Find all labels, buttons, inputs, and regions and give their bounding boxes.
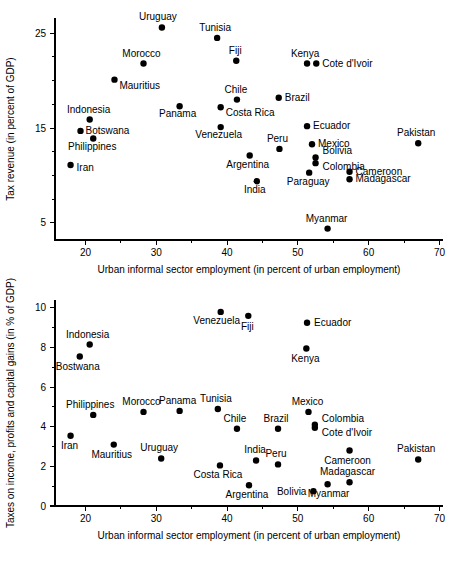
data-point-label: Iran bbox=[77, 162, 94, 173]
data-point[interactable] bbox=[312, 160, 318, 166]
data-point[interactable] bbox=[312, 425, 318, 431]
data-point-label: Costa Rica bbox=[226, 107, 275, 118]
data-point[interactable] bbox=[324, 481, 330, 487]
data-point-label: Bolivia bbox=[323, 145, 353, 156]
data-point[interactable] bbox=[304, 320, 310, 326]
data-point[interactable] bbox=[111, 76, 117, 82]
data-point[interactable] bbox=[140, 409, 146, 415]
data-point[interactable] bbox=[215, 406, 221, 412]
data-point-label: Uruguay bbox=[140, 442, 178, 453]
x-tick-label: 70 bbox=[434, 247, 446, 258]
y-tick-label: 15 bbox=[35, 123, 47, 134]
data-point-label: Peru bbox=[265, 448, 286, 459]
x-tick-label: 20 bbox=[80, 513, 92, 524]
data-point[interactable] bbox=[275, 461, 281, 467]
data-point-label: Fiji bbox=[241, 321, 254, 332]
x-tick-label: 50 bbox=[292, 513, 304, 524]
data-point-label: Indonesia bbox=[66, 329, 110, 340]
data-point-label: Venezuela bbox=[193, 315, 240, 326]
data-point[interactable] bbox=[234, 426, 240, 432]
y-tick-label: 4 bbox=[40, 421, 46, 432]
data-point[interactable] bbox=[233, 57, 239, 63]
data-point[interactable] bbox=[304, 60, 310, 66]
data-point[interactable] bbox=[234, 96, 240, 102]
data-point[interactable] bbox=[111, 441, 117, 447]
data-point[interactable] bbox=[159, 24, 165, 30]
data-point-label: Morocco bbox=[122, 396, 161, 407]
data-point-label: Chile bbox=[224, 413, 247, 424]
scatter-figure: 20304050607051525UruguayTunisiaMoroccoFi… bbox=[0, 0, 461, 565]
data-point-label: Mauritius bbox=[91, 449, 132, 460]
data-point-label: Kenya bbox=[291, 353, 320, 364]
x-tick-label: 60 bbox=[363, 513, 375, 524]
data-point[interactable] bbox=[217, 462, 223, 468]
data-point[interactable] bbox=[86, 341, 92, 347]
data-point[interactable] bbox=[275, 426, 281, 432]
data-point-label: Cote d'Ivoir bbox=[322, 427, 373, 438]
data-point[interactable] bbox=[67, 432, 73, 438]
data-point-label: India bbox=[244, 444, 266, 455]
x-tick-label: 30 bbox=[151, 513, 163, 524]
data-point[interactable] bbox=[346, 447, 352, 453]
data-point[interactable] bbox=[176, 408, 182, 414]
data-point-label: Madagascar bbox=[320, 466, 376, 477]
data-point-label: Indonesia bbox=[67, 104, 111, 115]
y-tick-label: 0 bbox=[40, 501, 46, 512]
data-point[interactable] bbox=[276, 94, 282, 100]
data-point[interactable] bbox=[346, 168, 352, 174]
data-point[interactable] bbox=[246, 482, 252, 488]
data-point-label: Peru bbox=[267, 133, 288, 144]
data-point[interactable] bbox=[303, 345, 309, 351]
data-point[interactable] bbox=[313, 60, 319, 66]
data-point-label: Panama bbox=[159, 395, 197, 406]
data-point[interactable] bbox=[346, 176, 352, 182]
data-point[interactable] bbox=[158, 455, 164, 461]
y-tick-label: 25 bbox=[35, 28, 47, 39]
data-point[interactable] bbox=[415, 456, 421, 462]
chart-income-taxes: 2030405060700246810VenezuelaFijiEcuadorI… bbox=[0, 278, 461, 565]
x-axis-ticks: 203040506070 bbox=[80, 506, 446, 524]
data-point[interactable] bbox=[140, 60, 146, 66]
data-point[interactable] bbox=[217, 104, 223, 110]
data-point[interactable] bbox=[214, 35, 220, 41]
data-point[interactable] bbox=[346, 479, 352, 485]
data-point-label: Tunisia bbox=[200, 393, 232, 404]
data-points: UruguayTunisiaMoroccoFijiKenyaCote d'Ivo… bbox=[67, 11, 435, 231]
data-point[interactable] bbox=[324, 225, 330, 231]
data-point[interactable] bbox=[305, 409, 311, 415]
data-point-label: Venezuela bbox=[195, 129, 242, 140]
data-point-label: Panama bbox=[159, 108, 197, 119]
data-point[interactable] bbox=[77, 128, 83, 134]
data-point-label: Myanmar bbox=[306, 213, 348, 224]
data-points: VenezuelaFijiEcuadorIndonesiaKenyaBostwa… bbox=[56, 309, 436, 501]
data-point[interactable] bbox=[415, 140, 421, 146]
data-point[interactable] bbox=[312, 154, 318, 160]
data-point[interactable] bbox=[309, 141, 315, 147]
data-point-label: Cote d'Ivoir bbox=[322, 58, 373, 69]
data-point[interactable] bbox=[245, 313, 251, 319]
data-point[interactable] bbox=[86, 116, 92, 122]
x-tick-label: 30 bbox=[151, 247, 163, 258]
data-point-label: Cameroon bbox=[324, 455, 371, 466]
data-point[interactable] bbox=[304, 123, 310, 129]
y-axis-ticks: 0246810 bbox=[35, 302, 55, 511]
data-point[interactable] bbox=[90, 412, 96, 418]
data-point[interactable] bbox=[67, 162, 73, 168]
data-point-label: Argentina bbox=[226, 489, 269, 500]
data-point-label: Pakistan bbox=[397, 443, 435, 454]
data-point-label: Pakistan bbox=[397, 127, 435, 138]
data-point-label: India bbox=[244, 184, 266, 195]
data-point-label: Kenya bbox=[291, 48, 320, 59]
data-point-label: Mexico bbox=[292, 396, 324, 407]
data-point[interactable] bbox=[310, 488, 316, 494]
data-point[interactable] bbox=[276, 146, 282, 152]
data-point-label: Ecuador bbox=[314, 317, 352, 328]
data-point-label: Chile bbox=[225, 84, 248, 95]
x-tick-label: 40 bbox=[221, 247, 233, 258]
data-point[interactable] bbox=[77, 353, 83, 359]
data-point[interactable] bbox=[253, 457, 259, 463]
data-point-label: Colombia bbox=[322, 413, 365, 424]
x-axis-title: Urban informal sector employment (in per… bbox=[98, 264, 401, 275]
x-axis-ticks: 203040506070 bbox=[80, 240, 446, 258]
data-point-label: Uruguay bbox=[139, 11, 177, 22]
